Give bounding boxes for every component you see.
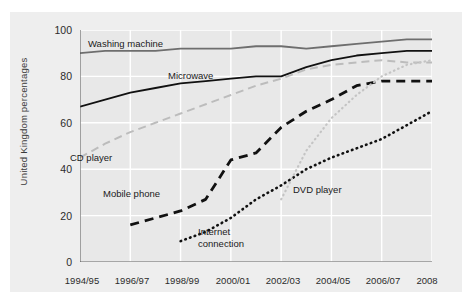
series-label-washing-machine: Washing machine [88,38,163,49]
x-tick-1998-99: 1998/99 [165,275,199,286]
chart-canvas [80,30,432,262]
y-tick-100: 100 [38,24,72,36]
series-label-mobile-phone: Mobile phone [103,188,160,199]
y-axis-label: United Kingdom percentages [18,37,29,207]
series-label-dvd-player: DVD player [293,184,342,195]
x-tick-1996-97: 1996/97 [115,275,149,286]
x-tick-2002-03: 2002/03 [266,275,300,286]
series-label-internet-connection-line2: connection [198,238,244,249]
x-tick-2000-01: 2000/01 [216,275,250,286]
x-tick-2008: 2008 [416,275,437,286]
series-label-microwave: Microwave [168,70,213,81]
series-label-internet-connection-line1: Internet [198,226,230,237]
y-tick-80: 80 [38,70,72,82]
plot-area: Washing machine Microwave CD player Mobi… [80,30,432,262]
y-tick-0: 0 [38,256,72,268]
series-label-cd-player: CD player [70,152,112,163]
plot-background [80,30,432,262]
chart-figure: United Kingdom percentages 100 80 60 40 … [0,0,472,304]
y-tick-40: 40 [38,163,72,175]
y-tick-20: 20 [38,210,72,222]
x-tick-2006-07: 2006/07 [366,275,400,286]
x-tick-1994-95: 1994/95 [65,275,99,286]
x-tick-2004-05: 2004/05 [316,275,350,286]
y-tick-60: 60 [38,117,72,129]
